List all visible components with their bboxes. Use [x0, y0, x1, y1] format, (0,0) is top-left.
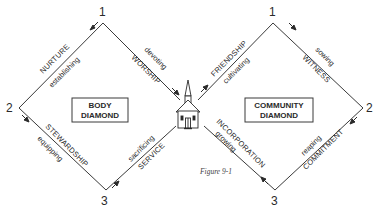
- body-title-line1: BODY: [88, 101, 112, 110]
- community-vertex-right: 2: [366, 101, 373, 115]
- body-edge-top-left: [19, 23, 103, 108]
- church-icon: [176, 80, 200, 129]
- body-vertex-top: 1: [99, 5, 106, 19]
- arrow-icon: [350, 117, 357, 124]
- arrow-icon: [289, 23, 296, 30]
- community-vertex-top: 1: [269, 5, 276, 19]
- community-title-line1: COMMUNITY: [254, 101, 304, 110]
- community-title-line2: DIAMOND: [260, 111, 298, 120]
- community-vertex-bottom: 3: [271, 194, 278, 208]
- body-vertex-bottom: 3: [101, 194, 108, 208]
- figure-caption: Figure 9-1: [199, 167, 232, 176]
- body-edge-bottom-right: [106, 126, 176, 190]
- arrow-icon: [172, 88, 179, 95]
- community-edge-top-left: [198, 23, 273, 100]
- body-title-line2: DIAMOND: [81, 111, 119, 120]
- arrow-icon: [261, 177, 268, 184]
- community-diamond-title-box: COMMUNITY DIAMOND: [245, 98, 313, 122]
- diagram-canvas: 1 2 3 1 2 3 NURTURE establishing devotin…: [0, 0, 379, 212]
- arrow-icon: [112, 181, 119, 188]
- body-vertex-left: 2: [6, 101, 13, 115]
- body-diamond-title-box: BODY DIAMOND: [72, 98, 128, 122]
